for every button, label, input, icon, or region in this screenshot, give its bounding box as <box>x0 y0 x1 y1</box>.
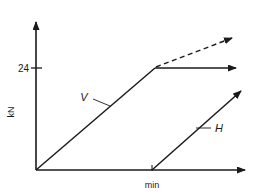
y-axis <box>31 22 42 170</box>
series-v-extrapolated <box>156 38 232 67</box>
x-axis-label: min <box>145 180 160 190</box>
series-v-dashed-line <box>156 38 232 67</box>
series-v-label: V <box>80 91 89 103</box>
series-v-leader-line <box>93 99 110 106</box>
series-h-label: H <box>215 122 223 134</box>
series-h <box>152 91 241 170</box>
x-axis <box>36 165 245 171</box>
y-tick-label-24: 24 <box>18 63 30 74</box>
force-time-diagram: 24 min kN V H <box>0 0 268 194</box>
chart-canvas: 24 min kN V H <box>0 0 268 194</box>
y-axis-label: kN <box>6 107 16 118</box>
series-v <box>36 68 236 170</box>
series-h-line <box>152 91 241 170</box>
series-v-ramp <box>36 68 155 170</box>
